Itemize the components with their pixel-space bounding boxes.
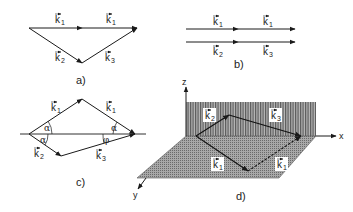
label-k3: k 3 [96, 150, 106, 162]
svg-text:2: 2 [211, 115, 215, 122]
x-axis-label: x [339, 131, 344, 141]
label-k1-right: k 1 [106, 102, 116, 114]
angle-phi: φ [103, 135, 109, 145]
caption-a: a) [76, 74, 86, 86]
label-k2: k 2 [34, 148, 44, 160]
svg-text:2: 2 [61, 57, 65, 64]
caption-d: d) [236, 190, 246, 202]
svg-text:1: 1 [61, 19, 65, 26]
angle-alpha-right: α [111, 123, 117, 133]
label-k2: k 2 [55, 52, 65, 64]
angle-alpha-top-left: α [44, 123, 50, 133]
svg-text:1: 1 [269, 21, 273, 28]
panel-d: z x y k 2 k 3 k 1 k 1 [133, 77, 344, 202]
panel-c: α α α φ k 1 k 1 k 2 k 3 c) [20, 99, 146, 188]
panel-b: k 1 k 1 k 2 k 3 b) [186, 16, 295, 70]
svg-text:3: 3 [269, 51, 273, 58]
svg-text:2: 2 [40, 153, 44, 160]
caption-b: b) [234, 58, 244, 70]
label-k2: k 2 [213, 46, 223, 58]
svg-text:3: 3 [111, 57, 115, 64]
label-k2: k 2 [203, 108, 216, 122]
label-k3: k 3 [105, 52, 115, 64]
label-k1-left: k 1 [51, 102, 61, 114]
panel-a: k 1 k 1 k 2 k 3 a) [29, 14, 137, 86]
label-k1-floor-right: k 1 [275, 157, 288, 171]
svg-text:3: 3 [102, 155, 106, 162]
svg-text:1: 1 [283, 164, 287, 171]
y-axis-label: y [133, 190, 138, 200]
svg-text:1: 1 [112, 107, 116, 114]
caption-c: c) [76, 176, 85, 188]
figure-canvas: k 1 k 1 k 2 k 3 a) k 1 [0, 0, 353, 212]
svg-text:1: 1 [112, 19, 116, 26]
y-axis [138, 178, 146, 189]
z-axis-label: z [182, 77, 187, 87]
label-k3: k 3 [269, 108, 282, 122]
angle-alpha-bottom-left: α [40, 135, 46, 145]
svg-text:1: 1 [219, 21, 223, 28]
label-k1-right: k 1 [263, 16, 273, 28]
svg-text:3: 3 [277, 115, 281, 122]
svg-text:2: 2 [219, 51, 223, 58]
svg-text:1: 1 [57, 107, 61, 114]
label-k3: k 3 [263, 46, 273, 58]
label-k1-floor-left: k 1 [211, 157, 224, 171]
label-k1-right: k 1 [106, 14, 116, 26]
label-k1-left: k 1 [213, 16, 223, 28]
svg-text:1: 1 [219, 164, 223, 171]
label-k1-left: k 1 [55, 14, 65, 26]
